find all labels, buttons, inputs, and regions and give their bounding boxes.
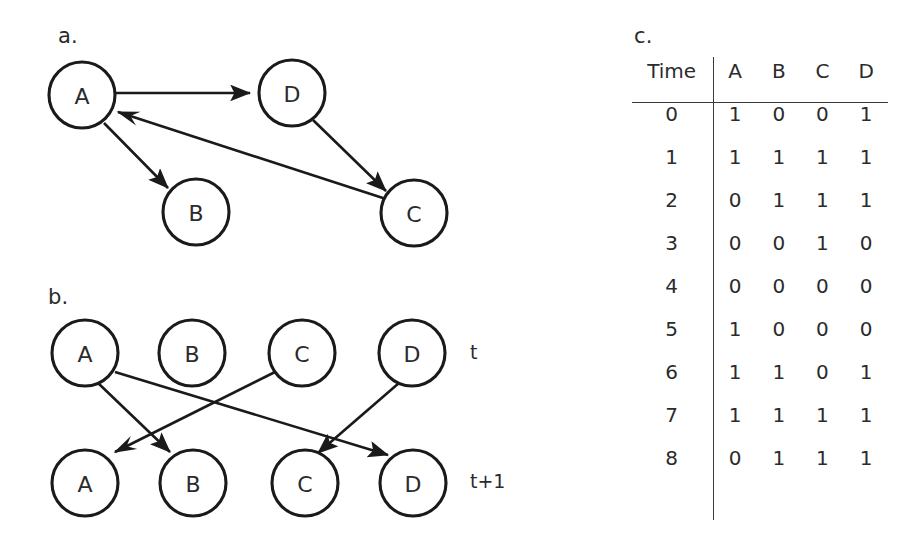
node-b-D-t[interactable]: D xyxy=(379,320,445,386)
time-row-label-t: t xyxy=(470,341,477,363)
cell-c: 1 xyxy=(801,136,845,179)
cell-d: 1 xyxy=(844,93,888,136)
cell-b: 0 xyxy=(757,265,801,308)
node-label: C xyxy=(406,202,421,227)
cell-a: 0 xyxy=(713,265,757,308)
column-header-d: D xyxy=(844,50,888,93)
node-a-D[interactable]: D xyxy=(259,60,325,126)
node-label: B xyxy=(184,342,199,367)
cell-c: 1 xyxy=(801,437,845,480)
state-table-wrap: Time A B C D 0 1 0 0 1 1 1 1 xyxy=(630,50,892,530)
cell-c: 0 xyxy=(801,308,845,351)
cell-time: 2 xyxy=(630,179,713,222)
state-table-body: 0 1 0 0 1 1 1 1 1 1 2 0 1 1 xyxy=(630,93,888,480)
edge-c-to-a xyxy=(118,112,386,199)
table-header-rule xyxy=(632,102,888,103)
panel-b-nodes-top: A B C D xyxy=(52,320,445,386)
cell-c: 1 xyxy=(801,394,845,437)
state-table: Time A B C D 0 1 0 0 1 1 1 1 xyxy=(630,50,888,480)
cell-time: 6 xyxy=(630,351,713,394)
node-label: C xyxy=(297,472,312,497)
cell-a: 1 xyxy=(713,351,757,394)
cell-b: 1 xyxy=(757,351,801,394)
node-label: B xyxy=(185,472,200,497)
edge-a-to-b xyxy=(104,123,168,188)
table-row: 3 0 0 1 0 xyxy=(630,222,888,265)
node-b-B-t[interactable]: B xyxy=(159,320,225,386)
cell-b: 1 xyxy=(757,136,801,179)
cell-time: 7 xyxy=(630,394,713,437)
node-label: D xyxy=(404,342,421,367)
panel-a-edges xyxy=(104,93,386,199)
table-header-row: Time A B C D xyxy=(630,50,888,93)
cell-b: 0 xyxy=(757,222,801,265)
cell-time: 5 xyxy=(630,308,713,351)
cell-time: 1 xyxy=(630,136,713,179)
time-row-label-t-plus-1: t+1 xyxy=(470,470,505,492)
node-label: D xyxy=(405,472,422,497)
cell-b: 0 xyxy=(757,308,801,351)
cell-d: 1 xyxy=(844,351,888,394)
column-header-a: A xyxy=(713,50,757,93)
cell-time: 8 xyxy=(630,437,713,480)
node-label: A xyxy=(74,84,89,109)
node-a-B[interactable]: B xyxy=(163,179,229,245)
cell-time: 4 xyxy=(630,265,713,308)
node-b-A-t1[interactable]: A xyxy=(52,450,118,516)
node-label: D xyxy=(284,82,301,107)
cell-c: 1 xyxy=(801,222,845,265)
cell-d: 0 xyxy=(844,222,888,265)
table-row: 0 1 0 0 1 xyxy=(630,93,888,136)
cell-a: 0 xyxy=(713,437,757,480)
node-label: C xyxy=(294,342,309,367)
cell-c: 0 xyxy=(801,265,845,308)
table-row: 7 1 1 1 1 xyxy=(630,394,888,437)
cell-b: 1 xyxy=(757,437,801,480)
node-label: A xyxy=(77,472,92,497)
table-vertical-rule xyxy=(713,57,714,520)
cell-c: 0 xyxy=(801,351,845,394)
cell-c: 1 xyxy=(801,179,845,222)
edge-b-Dt-to-Ct1 xyxy=(318,383,399,453)
cell-b: 0 xyxy=(757,93,801,136)
table-row: 5 1 0 0 0 xyxy=(630,308,888,351)
table-row: 4 0 0 0 0 xyxy=(630,265,888,308)
cell-d: 0 xyxy=(844,308,888,351)
node-b-C-t1[interactable]: C xyxy=(272,450,338,516)
cell-b: 1 xyxy=(757,179,801,222)
cell-a: 1 xyxy=(713,93,757,136)
cell-time: 3 xyxy=(630,222,713,265)
cell-a: 0 xyxy=(713,179,757,222)
cell-a: 1 xyxy=(713,394,757,437)
cell-a: 1 xyxy=(713,136,757,179)
table-row: 8 0 1 1 1 xyxy=(630,437,888,480)
node-a-A[interactable]: A xyxy=(49,62,115,128)
cell-d: 1 xyxy=(844,136,888,179)
panel-b-edges xyxy=(98,371,399,455)
cell-b: 1 xyxy=(757,394,801,437)
column-header-c: C xyxy=(801,50,845,93)
cell-d: 0 xyxy=(844,265,888,308)
table-row: 2 0 1 1 1 xyxy=(630,179,888,222)
panel-b-nodes-bottom: A B C D xyxy=(52,450,446,516)
cell-d: 1 xyxy=(844,394,888,437)
table-row: 6 1 1 0 1 xyxy=(630,351,888,394)
table-row: 1 1 1 1 1 xyxy=(630,136,888,179)
column-header-time: Time xyxy=(630,50,713,93)
node-b-B-t1[interactable]: B xyxy=(160,450,226,516)
cell-a: 0 xyxy=(713,222,757,265)
node-b-D-t1[interactable]: D xyxy=(380,450,446,516)
node-label: B xyxy=(188,201,203,226)
node-b-C-t[interactable]: C xyxy=(269,320,335,386)
node-label: A xyxy=(77,342,92,367)
cell-a: 1 xyxy=(713,308,757,351)
node-b-A-t[interactable]: A xyxy=(52,320,118,386)
edge-d-to-c xyxy=(313,120,386,191)
figure-canvas: a. b. c. A D xyxy=(0,0,924,543)
cell-time: 0 xyxy=(630,93,713,136)
cell-c: 0 xyxy=(801,93,845,136)
cell-d: 1 xyxy=(844,437,888,480)
cell-d: 1 xyxy=(844,179,888,222)
column-header-b: B xyxy=(757,50,801,93)
node-a-C[interactable]: C xyxy=(381,180,447,246)
